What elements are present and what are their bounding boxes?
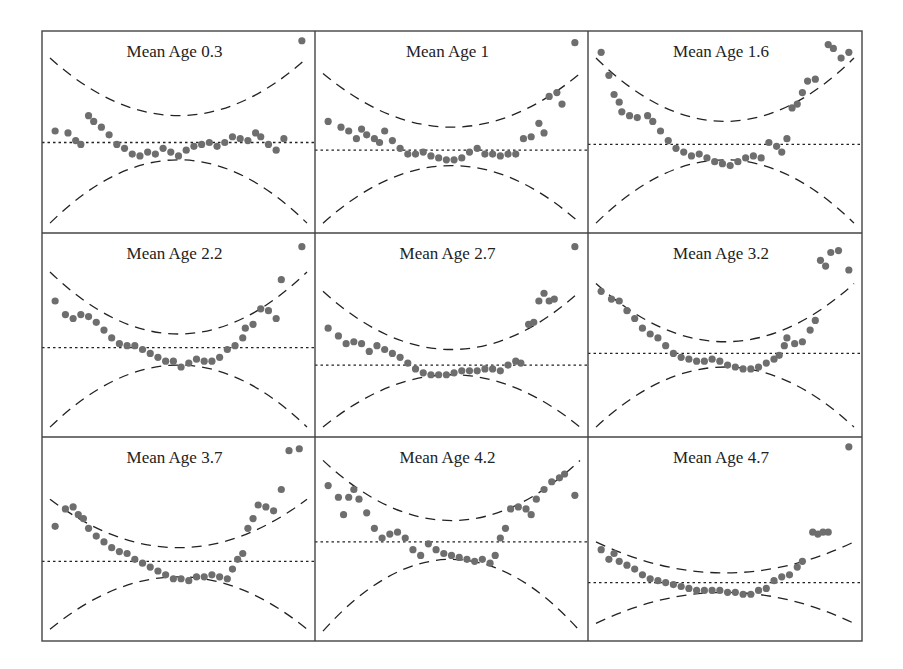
- data-point: [520, 135, 527, 142]
- data-point: [747, 365, 754, 372]
- data-point: [474, 145, 481, 152]
- data-point: [458, 367, 465, 374]
- data-point: [662, 579, 669, 586]
- data-point: [571, 492, 578, 499]
- data-point: [420, 149, 427, 156]
- data-point: [755, 363, 762, 370]
- data-point: [100, 327, 107, 334]
- data-point: [504, 361, 511, 368]
- data-point: [116, 340, 123, 347]
- data-point: [750, 152, 757, 159]
- panel-5: Mean Age 2.7: [315, 243, 588, 427]
- data-point: [106, 131, 113, 138]
- data-point: [448, 552, 455, 559]
- data-point: [170, 358, 177, 365]
- data-point: [93, 319, 100, 326]
- data-point: [644, 112, 651, 119]
- data-point: [466, 367, 473, 374]
- data-point: [340, 511, 347, 518]
- data-point: [108, 334, 115, 341]
- data-point: [412, 150, 419, 157]
- data-point: [528, 511, 535, 518]
- data-point: [129, 150, 136, 157]
- upper-control-limit: [323, 73, 580, 127]
- data-point: [273, 315, 280, 322]
- data-point: [335, 494, 342, 501]
- data-point: [528, 133, 535, 140]
- panel-1: Mean Age 0.3: [42, 37, 315, 223]
- data-point: [763, 360, 770, 367]
- data-point: [639, 325, 646, 332]
- lower-control-limit: [50, 160, 307, 223]
- data-point: [812, 317, 819, 324]
- lower-control-limit: [323, 559, 580, 631]
- data-point: [742, 154, 749, 161]
- data-point: [229, 133, 236, 140]
- data-point: [825, 529, 832, 536]
- data-point: [193, 573, 200, 580]
- data-points: [325, 243, 579, 378]
- data-point: [492, 552, 499, 559]
- data-point: [190, 143, 197, 150]
- data-point: [481, 365, 488, 372]
- data-point: [515, 503, 522, 510]
- data-point: [136, 152, 143, 159]
- data-point: [162, 358, 169, 365]
- data-point: [139, 560, 146, 567]
- data-point: [709, 587, 716, 594]
- data-point: [678, 583, 685, 590]
- data-point: [221, 139, 228, 146]
- data-point: [794, 101, 801, 108]
- data-point: [144, 149, 151, 156]
- data-point: [804, 77, 811, 84]
- data-point: [335, 332, 342, 339]
- data-point: [610, 550, 617, 557]
- panel-title: Mean Age 4.2: [400, 448, 496, 467]
- data-point: [450, 156, 457, 163]
- data-point: [685, 585, 692, 592]
- data-point: [693, 587, 700, 594]
- data-point: [701, 587, 708, 594]
- data-point: [551, 295, 558, 302]
- data-points: [325, 470, 579, 566]
- data-point: [830, 45, 837, 52]
- data-point: [262, 503, 269, 510]
- panel-title: Mean Age 3.7: [127, 448, 223, 467]
- data-point: [70, 503, 77, 510]
- panel-title: Mean Age 1.6: [673, 42, 769, 61]
- data-point: [665, 137, 672, 144]
- panel-4: Mean Age 2.2: [42, 243, 315, 427]
- data-point: [670, 350, 677, 357]
- data-point: [481, 150, 488, 157]
- panel-title: Mean Age 2.7: [400, 244, 496, 263]
- data-point: [688, 152, 695, 159]
- data-point: [696, 150, 703, 157]
- data-point: [497, 152, 504, 159]
- data-point: [489, 365, 496, 372]
- data-point: [389, 350, 396, 357]
- data-point: [52, 523, 59, 530]
- data-point: [598, 288, 605, 295]
- data-point: [435, 154, 442, 161]
- data-point: [765, 139, 772, 146]
- data-point: [571, 39, 578, 46]
- data-point: [443, 371, 450, 378]
- data-point: [794, 564, 801, 571]
- data-point: [404, 360, 411, 367]
- data-point: [812, 76, 819, 83]
- data-point: [397, 354, 404, 361]
- upper-control-limit: [50, 272, 307, 334]
- data-point: [763, 585, 770, 592]
- data-point: [147, 350, 154, 357]
- data-point: [249, 515, 256, 522]
- data-point: [363, 509, 370, 516]
- data-point: [758, 154, 765, 161]
- lower-control-limit: [323, 375, 580, 427]
- data-point: [100, 538, 107, 545]
- data-point: [270, 507, 277, 514]
- data-point: [672, 145, 679, 152]
- data-point: [571, 243, 578, 250]
- data-point: [234, 556, 241, 563]
- data-point: [381, 346, 388, 353]
- data-point: [177, 363, 184, 370]
